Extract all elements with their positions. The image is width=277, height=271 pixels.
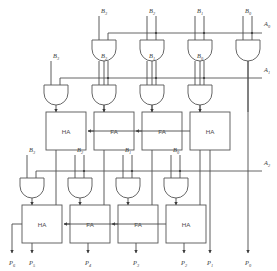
junction [203,32,205,34]
adder-row-2: HA FA FA HA [12,205,206,253]
junction [203,77,205,79]
input-row-1 [44,61,262,112]
output-label-p4: P4 [84,259,92,268]
junction [179,170,181,172]
and-gate-r2-c3 [164,178,188,198]
input-label-b3-row2: B3 [29,146,35,155]
input-label-b3-row0: B3 [101,7,107,16]
adder-label: HA [182,221,191,228]
labels-b-row0: B3 B2 B1 B0 A0 [101,7,271,29]
input-label-a0: A0 [263,20,271,29]
output-label-p5: P5 [28,259,36,268]
input-label-b0-row0: B0 [245,7,252,16]
input-label-a1: A1 [263,66,270,75]
adder-label: HA [38,221,47,228]
output-label-p6: P6 [8,259,16,268]
circuit-diagram-root: HA FA FA HA [0,0,277,271]
and-gate-r1-c0 [44,85,68,105]
output-label-p3: P3 [132,259,139,268]
input-label-b3-row1: B3 [53,52,59,61]
junction [251,32,253,34]
input-label-a2: A2 [263,159,271,168]
and-gate-r1-c1 [92,85,116,105]
and-gate-r2-c0 [20,178,44,198]
junction [131,170,133,172]
array-multiplier-schematic: HA FA FA HA [0,0,277,271]
adder-label: HA [206,128,215,135]
junction [83,170,85,172]
and-gate-r2-c2 [116,178,140,198]
input-label-b1-row0: B1 [197,7,203,16]
input-row-0 [92,16,262,112]
and-gate-r1-c3 [188,85,212,105]
and-gate-r2-c1 [68,178,92,198]
output-label-p1: P1 [206,259,213,268]
and-gate-r0-c3 [236,40,260,61]
adder-label: HA [62,128,71,135]
junction [155,32,157,34]
junction [107,77,109,79]
and-gate-r1-c2 [140,85,164,105]
output-label-p2: P2 [180,259,188,268]
output-label-p0: P0 [244,259,252,268]
junction [155,77,157,79]
input-label-b2-row0: B2 [149,7,156,16]
labels-outputs: P6 P5 P4 P3 P2 P1 P0 [8,259,252,268]
